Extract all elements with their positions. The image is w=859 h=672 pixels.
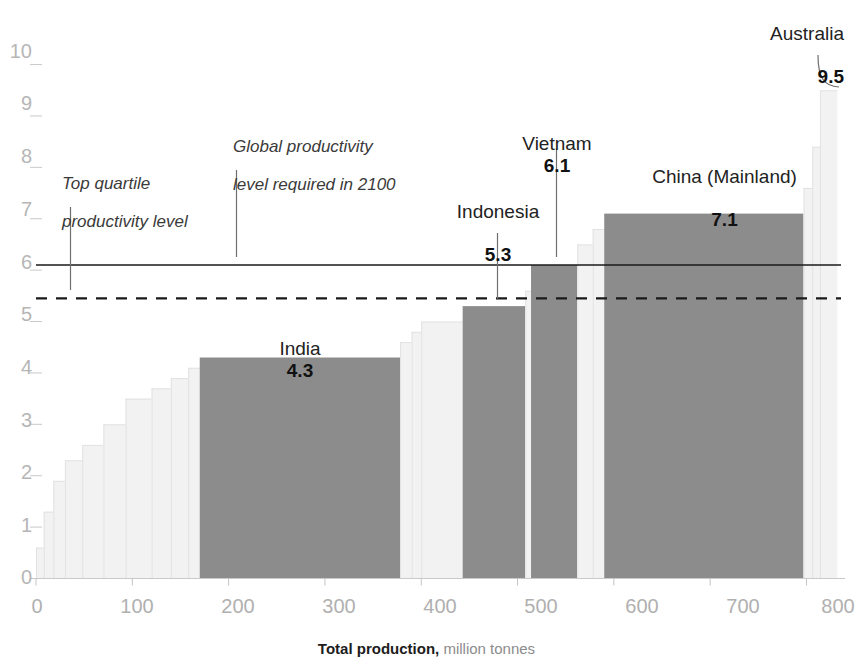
bar-top-12 xyxy=(412,332,422,333)
bar-top-18 xyxy=(593,229,605,230)
bar-top-9 xyxy=(188,368,200,369)
x-tick-label-800: 800 xyxy=(803,596,859,616)
annotation-vietnam-name: Vietnam xyxy=(522,133,591,154)
x-tick-label-500: 500 xyxy=(506,596,576,616)
bar-top-17 xyxy=(577,244,592,245)
bar-unlabeled-11[interactable] xyxy=(400,342,412,578)
bar-unlabeled-0[interactable] xyxy=(36,548,44,579)
bar-india[interactable] xyxy=(200,358,400,579)
annotation-india-value: 4.3 xyxy=(287,360,313,381)
y-tick-label-1: 1 xyxy=(2,515,32,535)
x-tick-label-100: 100 xyxy=(102,596,172,616)
bar-edge-5 xyxy=(103,424,104,578)
bar-unlabeled-9[interactable] xyxy=(188,368,200,579)
annotation-vietnam-value: 6.1 xyxy=(544,155,570,176)
annotation-global-2100-line1: Global productivity xyxy=(233,137,463,156)
x-tick-label-600: 600 xyxy=(607,596,677,616)
annotation-indonesia-value: 5.3 xyxy=(427,244,569,265)
bar-unlabeled-1[interactable] xyxy=(44,512,54,579)
bar-edge-9 xyxy=(188,368,189,579)
x-tick-marks xyxy=(36,579,806,586)
annotation-china-name: China (Mainland) xyxy=(618,166,831,187)
bar-top-2 xyxy=(53,481,65,482)
bar-edge-17 xyxy=(577,244,578,578)
bar-edge-11 xyxy=(400,342,401,578)
x-axis-title: Total production, million tonnes xyxy=(0,641,853,656)
bar-vietnam[interactable] xyxy=(531,265,577,579)
y-tick-label-7: 7 xyxy=(2,199,32,219)
annotation-china: China (Mainland) 7.1 xyxy=(618,145,831,251)
bar-top-15 xyxy=(525,291,531,292)
bar-china-mainland[interactable] xyxy=(604,214,803,579)
bar-unlabeled-7[interactable] xyxy=(152,388,171,578)
y-tick-label-8: 8 xyxy=(2,146,32,166)
y-tick-label-3: 3 xyxy=(2,410,32,430)
y-tick-label-9: 9 xyxy=(2,93,32,113)
bar-edge-1 xyxy=(44,512,45,579)
bar-edge-7 xyxy=(152,388,153,578)
bar-top-4 xyxy=(82,445,103,446)
x-axis-title-rest: million tonnes xyxy=(439,640,535,657)
bar-edge-2 xyxy=(53,481,54,579)
bar-unlabeled-5[interactable] xyxy=(103,424,125,578)
y-tick-label-10: 10 xyxy=(2,41,32,61)
annotation-indonesia: Indonesia 5.3 xyxy=(427,180,569,286)
bar-top-3 xyxy=(65,460,82,461)
y-tick-label-0: 0 xyxy=(2,567,32,587)
annotation-india-name: India xyxy=(279,338,320,359)
annotation-top-quartile: Top quartile productivity level xyxy=(62,155,252,250)
bar-unlabeled-3[interactable] xyxy=(65,460,82,578)
bar-unlabeled-18[interactable] xyxy=(593,229,605,578)
bar-edge-4 xyxy=(82,445,83,579)
bar-unlabeled-8[interactable] xyxy=(171,378,188,578)
bar-unlabeled-12[interactable] xyxy=(412,332,422,579)
bar-indonesia[interactable] xyxy=(463,306,526,578)
bar-top-1 xyxy=(44,512,54,513)
bar-edge-12 xyxy=(412,332,413,579)
bar-edge-6 xyxy=(126,399,127,579)
bar-top-7 xyxy=(152,388,171,389)
x-tick-label-400: 400 xyxy=(405,596,475,616)
annotation-australia: Australia 9.5 xyxy=(640,2,844,108)
bar-top-6 xyxy=(126,399,152,400)
x-tick-label-200: 200 xyxy=(203,596,273,616)
annotation-china-value: 7.1 xyxy=(618,209,831,230)
x-tick-label-300: 300 xyxy=(304,596,374,616)
bar-top-0 xyxy=(36,548,44,549)
y-tick-label-2: 2 xyxy=(2,462,32,482)
bar-unlabeled-2[interactable] xyxy=(53,481,65,579)
bar-top-8 xyxy=(171,378,188,379)
annotation-vietnam: Vietnam 6.1 xyxy=(476,112,638,176)
bar-top-5 xyxy=(103,424,125,425)
bar-unlabeled-4[interactable] xyxy=(82,445,103,579)
bar-unlabeled-13[interactable] xyxy=(421,322,462,579)
bar-edge-15 xyxy=(525,291,526,579)
annotation-indonesia-name: Indonesia xyxy=(427,201,569,222)
bar-edge-3 xyxy=(65,460,66,578)
bar-unlabeled-17[interactable] xyxy=(577,244,592,578)
annotation-india: India 4.3 xyxy=(200,317,400,381)
bar-unlabeled-6[interactable] xyxy=(126,399,152,579)
y-tick-label-6: 6 xyxy=(2,252,32,272)
bar-edge-8 xyxy=(171,378,172,578)
annotation-top-quartile-line2: productivity level xyxy=(62,212,252,231)
annotation-australia-value: 9.5 xyxy=(640,66,844,87)
y-tick-label-5: 5 xyxy=(2,304,32,324)
bar-top-13 xyxy=(421,322,462,323)
x-tick-label-0: 0 xyxy=(2,596,72,616)
bar-edge-18 xyxy=(593,229,594,578)
bar-edge-13 xyxy=(421,322,422,579)
bar-top-11 xyxy=(400,342,412,343)
x-tick-label-700: 700 xyxy=(708,596,778,616)
x-axis-title-bold: Total production, xyxy=(318,640,439,657)
bar-edge-0 xyxy=(36,548,37,579)
y-tick-label-4: 4 xyxy=(2,357,32,377)
annotation-australia-name: Australia xyxy=(640,23,844,44)
annotation-top-quartile-line1: Top quartile xyxy=(62,174,252,193)
